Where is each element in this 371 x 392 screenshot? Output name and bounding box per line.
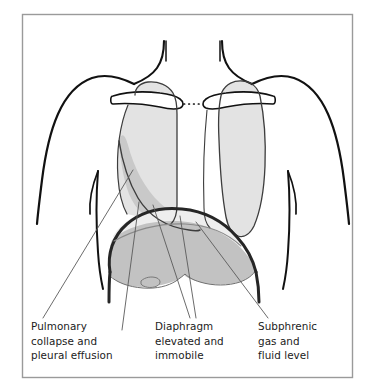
label-subphrenic-line-1: Subphrenic bbox=[258, 320, 317, 332]
label-pulmonary-line-1: Pulmonary bbox=[31, 320, 87, 332]
label-diaphragm-line-2: elevated and bbox=[155, 335, 224, 347]
figure-container: Pulmonary collapse and pleural effusion … bbox=[0, 0, 371, 392]
label-diaphragm-line-1: Diaphragm bbox=[155, 320, 213, 332]
label-pulmonary-line-3: pleural effusion bbox=[31, 349, 113, 361]
label-subphrenic-line-3: fluid level bbox=[258, 349, 309, 361]
label-pulmonary-line-2: collapse and bbox=[31, 335, 97, 347]
label-subphrenic-line-2: gas and bbox=[258, 335, 300, 347]
label-diaphragm-line-3: immobile bbox=[155, 349, 204, 361]
gallbladder bbox=[141, 277, 160, 287]
diaphragm-left-limb bbox=[109, 272, 110, 302]
anatomical-diagram: Pulmonary collapse and pleural effusion … bbox=[0, 0, 371, 392]
